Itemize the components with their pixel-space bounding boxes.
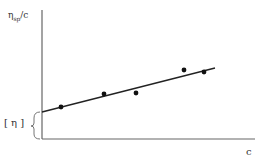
intercept-label: [ η ] bbox=[4, 117, 24, 128]
fit-line bbox=[42, 68, 215, 112]
x-axis-label: c bbox=[246, 146, 252, 157]
chart-canvas bbox=[0, 0, 267, 160]
data-point bbox=[134, 91, 139, 96]
data-point bbox=[182, 68, 187, 73]
data-point bbox=[102, 92, 107, 97]
data-point bbox=[202, 70, 207, 75]
y-axis-label: ηsp/c bbox=[8, 10, 28, 22]
data-point bbox=[59, 105, 64, 110]
intercept-brace-icon bbox=[31, 112, 40, 139]
